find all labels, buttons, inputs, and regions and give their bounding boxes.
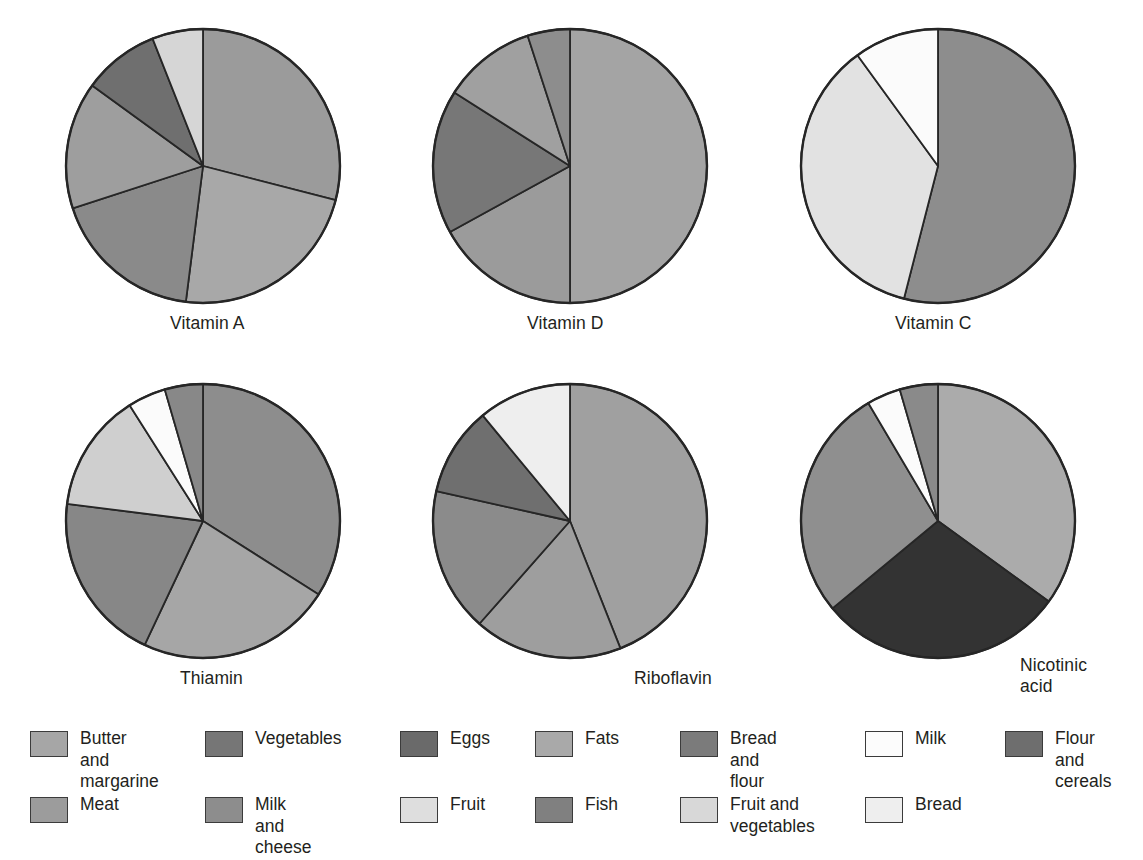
- pie-chart-title-thiamin: Thiamin: [180, 668, 243, 689]
- legend-item[interactable]: Eggs: [400, 728, 490, 757]
- legend-label: Flour and cereals: [1055, 728, 1111, 793]
- legend-swatch-icon: [400, 797, 438, 823]
- legend-swatch-icon: [205, 731, 243, 757]
- legend-label: Butter and margarine: [80, 728, 159, 793]
- pie-slice: [570, 29, 707, 303]
- legend-item[interactable]: Fruit: [400, 794, 485, 823]
- legend-swatch-icon: [535, 731, 573, 757]
- legend-label: Fats: [585, 728, 619, 750]
- legend-item[interactable]: Fruit and vegetables: [680, 794, 815, 837]
- charts-area: Vitamin AVitamin DVitamin CThiaminRibofl…: [0, 0, 1143, 712]
- legend-swatch-icon: [535, 797, 573, 823]
- legend-item[interactable]: Milk and cheese: [205, 794, 311, 859]
- legend-label: Milk: [915, 728, 946, 750]
- pie-charts-svg: [0, 0, 1143, 712]
- legend-item[interactable]: Fats: [535, 728, 619, 757]
- pie-chart-title-nicotinic-acid: Nicotinic acid: [1020, 655, 1087, 697]
- pie-chart-vitamin-a: [66, 29, 340, 303]
- legend-item[interactable]: Fish: [535, 794, 618, 823]
- pie-chart-title-vitamin-a: Vitamin A: [170, 313, 245, 334]
- legend-label: Bread and flour: [730, 728, 777, 793]
- pie-chart-title-vitamin-c: Vitamin C: [895, 313, 971, 334]
- legend-swatch-icon: [30, 797, 68, 823]
- legend-label: Meat: [80, 794, 119, 816]
- pie-chart-thiamin: [66, 384, 340, 658]
- legend-item[interactable]: Milk: [865, 728, 946, 757]
- legend-label: Eggs: [450, 728, 490, 750]
- legend-item[interactable]: Bread and flour: [680, 728, 777, 793]
- legend: Butter and margarineMeatVegetablesMilk a…: [0, 716, 1143, 860]
- legend-item[interactable]: Vegetables: [205, 728, 342, 757]
- legend-item[interactable]: Butter and margarine: [30, 728, 159, 793]
- legend-swatch-icon: [865, 797, 903, 823]
- legend-label: Fruit: [450, 794, 485, 816]
- legend-swatch-icon: [865, 731, 903, 757]
- legend-item[interactable]: Bread: [865, 794, 962, 823]
- legend-swatch-icon: [30, 731, 68, 757]
- pie-chart-title-vitamin-d: Vitamin D: [527, 313, 603, 334]
- pie-chart-figure: Vitamin AVitamin DVitamin CThiaminRibofl…: [0, 0, 1143, 860]
- pie-chart-title-riboflavin: Riboflavin: [634, 668, 712, 689]
- legend-item[interactable]: Flour and cereals: [1005, 728, 1111, 793]
- pie-chart-vitamin-c: [801, 29, 1075, 303]
- legend-label: Vegetables: [255, 728, 342, 750]
- legend-label: Fruit and vegetables: [730, 794, 815, 837]
- legend-swatch-icon: [1005, 731, 1043, 757]
- legend-label: Bread: [915, 794, 962, 816]
- legend-swatch-icon: [680, 797, 718, 823]
- pie-chart-vitamin-d: [433, 29, 707, 303]
- legend-item[interactable]: Meat: [30, 794, 119, 823]
- pie-chart-riboflavin: [433, 384, 707, 658]
- pie-chart-nicotinic-acid: [801, 384, 1075, 658]
- legend-swatch-icon: [400, 731, 438, 757]
- legend-label: Milk and cheese: [255, 794, 311, 859]
- legend-swatch-icon: [680, 731, 718, 757]
- legend-label: Fish: [585, 794, 618, 816]
- legend-swatch-icon: [205, 797, 243, 823]
